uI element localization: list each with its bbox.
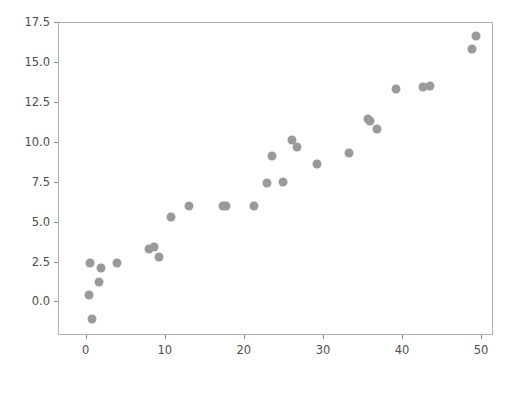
x-tick-mark	[402, 335, 403, 339]
x-tick-mark	[481, 335, 482, 339]
y-tick-mark	[54, 182, 58, 183]
data-point	[88, 315, 97, 324]
data-point	[391, 85, 400, 94]
data-point	[84, 291, 93, 300]
y-tick-mark	[54, 301, 58, 302]
data-point	[425, 81, 434, 90]
data-point	[222, 201, 231, 210]
x-tick-label: 0	[66, 343, 106, 357]
y-tick-label: 15.0	[4, 55, 50, 69]
data-point	[345, 148, 354, 157]
data-point	[85, 259, 94, 268]
x-tick-mark	[165, 335, 166, 339]
scatter-plot-figure: 0.02.55.07.510.012.515.017.5 01020304050	[0, 0, 528, 413]
data-point	[184, 201, 193, 210]
y-tick-label: 17.5	[4, 15, 50, 29]
plot-axes-area	[58, 22, 493, 335]
y-tick-label: 2.5	[4, 255, 50, 269]
y-tick-mark	[54, 102, 58, 103]
x-tick-label: 20	[224, 343, 264, 357]
x-tick-mark	[323, 335, 324, 339]
data-point	[95, 278, 104, 287]
y-tick-mark	[54, 222, 58, 223]
data-point	[467, 45, 476, 54]
y-tick-label: 10.0	[4, 135, 50, 149]
data-point	[472, 32, 481, 41]
data-point	[292, 142, 301, 151]
y-tick-label: 0.0	[4, 294, 50, 308]
data-point	[167, 212, 176, 221]
y-tick-mark	[54, 262, 58, 263]
x-tick-label: 10	[145, 343, 185, 357]
y-tick-mark	[54, 62, 58, 63]
data-point	[372, 124, 381, 133]
y-tick-label: 5.0	[4, 215, 50, 229]
data-point	[312, 160, 321, 169]
x-tick-label: 30	[303, 343, 343, 357]
data-point	[149, 243, 158, 252]
x-tick-mark	[86, 335, 87, 339]
y-tick-label: 12.5	[4, 95, 50, 109]
data-point	[250, 201, 259, 210]
data-point	[155, 252, 164, 261]
x-tick-mark	[244, 335, 245, 339]
data-point	[112, 259, 121, 268]
data-point	[262, 179, 271, 188]
data-point	[267, 152, 276, 161]
data-point	[96, 263, 105, 272]
y-tick-mark	[54, 142, 58, 143]
y-tick-mark	[54, 22, 58, 23]
x-tick-label: 40	[382, 343, 422, 357]
x-tick-label: 50	[461, 343, 501, 357]
y-tick-label: 7.5	[4, 175, 50, 189]
data-point	[278, 177, 287, 186]
